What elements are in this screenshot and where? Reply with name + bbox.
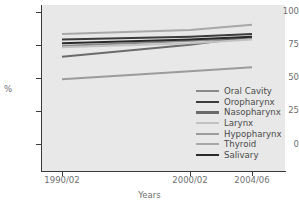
legend-item-thyroid: Thyroid	[196, 139, 295, 150]
chart-figure: 100 75 50 25 0 1990/02 2000/02 2004/06 %…	[0, 0, 299, 209]
series-line-thyroid	[62, 25, 252, 34]
legend-item-salivary: Salivary	[196, 150, 295, 161]
legend-swatch-icon-thyroid	[196, 143, 219, 145]
legend-label-nasopharynx: Nasopharynx	[224, 107, 281, 117]
legend-item-nasopharynx: Nasopharynx	[196, 107, 295, 118]
legend-label-larynx: Larynx	[224, 118, 253, 128]
legend-swatch-icon-oral-cavity	[196, 90, 219, 92]
legend-swatch-icon-nasopharynx	[196, 111, 219, 113]
legend-swatch-icon-salivary	[196, 154, 219, 156]
legend-label-salivary: Salivary	[224, 150, 258, 160]
legend-item-oral-cavity: Oral Cavity	[196, 86, 295, 97]
legend-item-larynx: Larynx	[196, 118, 295, 129]
legend-swatch-icon-oropharynx	[196, 101, 219, 103]
legend-swatch-icon-hypopharynx	[196, 133, 219, 135]
series-line-hypopharynx	[62, 67, 252, 79]
legend-label-thyroid: Thyroid	[224, 139, 256, 149]
legend: Oral Cavity Oropharynx Nasopharynx Laryn…	[196, 86, 295, 160]
legend-item-hypopharynx: Hypopharynx	[196, 128, 295, 139]
legend-item-oropharynx: Oropharynx	[196, 97, 295, 108]
legend-label-oropharynx: Oropharynx	[224, 97, 275, 107]
legend-label-hypopharynx: Hypopharynx	[224, 129, 282, 139]
legend-swatch-icon-larynx	[196, 122, 219, 124]
legend-label-oral-cavity: Oral Cavity	[224, 86, 272, 96]
